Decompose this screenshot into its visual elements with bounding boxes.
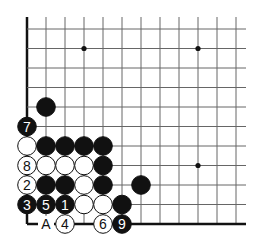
move-number: 4: [61, 216, 69, 232]
black-stone: [75, 137, 94, 156]
white-stone: [75, 176, 94, 195]
white-stone: 6: [94, 215, 113, 234]
move-number: 6: [99, 216, 107, 232]
white-stone: 2: [18, 176, 37, 195]
black-stone: [94, 137, 113, 156]
black-stone: [94, 176, 113, 195]
black-stone: 1: [56, 195, 75, 214]
white-stone: [75, 195, 94, 214]
point-label: A: [41, 216, 51, 232]
black-stone: [37, 176, 56, 195]
black-stone: 3: [18, 195, 37, 214]
star-point: [195, 163, 200, 168]
black-stone: 5: [37, 195, 56, 214]
move-number: 5: [42, 197, 50, 213]
white-stone: [94, 195, 113, 214]
star-point: [81, 46, 86, 51]
move-number: 7: [23, 119, 31, 135]
black-stone: [94, 156, 113, 175]
move-number: 3: [23, 197, 31, 213]
move-number: 1: [61, 197, 69, 213]
white-stone: [37, 156, 56, 175]
white-stone: [18, 137, 37, 156]
black-stone: [113, 195, 132, 214]
black-stone: 7: [18, 117, 37, 136]
move-number: 9: [118, 216, 126, 232]
star-point: [195, 46, 200, 51]
black-stone: 9: [113, 215, 132, 234]
point-labels: A: [38, 216, 54, 232]
black-stone: [132, 176, 151, 195]
black-stone: [56, 176, 75, 195]
white-stone: [75, 156, 94, 175]
black-stone: [56, 137, 75, 156]
white-stone: 8: [18, 156, 37, 175]
move-number: 8: [23, 158, 31, 174]
white-stone: 4: [56, 215, 75, 234]
black-stone: [37, 137, 56, 156]
move-number: 2: [23, 177, 31, 193]
black-stone: [37, 98, 56, 117]
go-board: A 782351469: [0, 0, 261, 247]
white-stone: [56, 156, 75, 175]
